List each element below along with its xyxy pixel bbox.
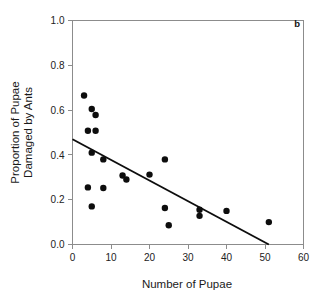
y-axis-ticks [68,21,73,245]
regression-line [73,139,269,244]
y-axis-tick-labels: 0.00.20.40.60.81.0 [51,15,65,250]
x-tick-label: 10 [105,252,117,263]
y-tick-label: 0.6 [51,105,65,116]
data-point [85,184,91,190]
y-tick-label: 0.4 [51,150,65,161]
data-point [196,207,202,213]
y-tick-label: 0.2 [51,194,65,205]
y-tick-label: 1.0 [51,15,65,26]
x-tick-label: 20 [144,252,156,263]
x-tick-label: 0 [70,252,76,263]
data-points [81,92,272,228]
y-tick-label: 0.8 [51,60,65,71]
x-axis-tick-labels: 0102030405060 [70,252,310,263]
data-point [81,92,87,98]
scatter-plot: 0.00.20.40.60.81.0 0102030405060 Proport… [0,0,323,296]
x-axis-ticks [73,245,304,250]
data-point [196,213,202,219]
figure-panel-b: 0.00.20.40.60.81.0 0102030405060 Proport… [0,0,323,296]
data-point [92,128,98,134]
data-point [162,156,168,162]
data-point [89,203,95,209]
x-tick-label: 40 [221,252,233,263]
x-tick-label: 50 [259,252,271,263]
y-tick-label: 0.0 [51,239,65,250]
axis-frame [73,21,304,245]
data-point [162,205,168,211]
data-point [89,106,95,112]
data-point [92,112,98,118]
data-point [100,185,106,191]
data-point [166,222,172,228]
data-point [123,176,129,182]
x-axis-title: Number of Pupae [142,278,232,290]
data-point [89,149,95,155]
data-point [266,219,272,225]
data-point [146,171,152,177]
panel-label: b [294,18,300,29]
y-axis-title: Proportion of Pupae Damaged by Ants [9,81,34,183]
x-tick-label: 60 [298,252,310,263]
data-point [85,128,91,134]
data-point [100,156,106,162]
x-tick-label: 30 [182,252,194,263]
data-point [223,208,229,214]
y-axis-title-line-1: Proportion of Pupae [9,81,21,183]
y-axis-title-line-2: Damaged by Ants [22,87,34,178]
